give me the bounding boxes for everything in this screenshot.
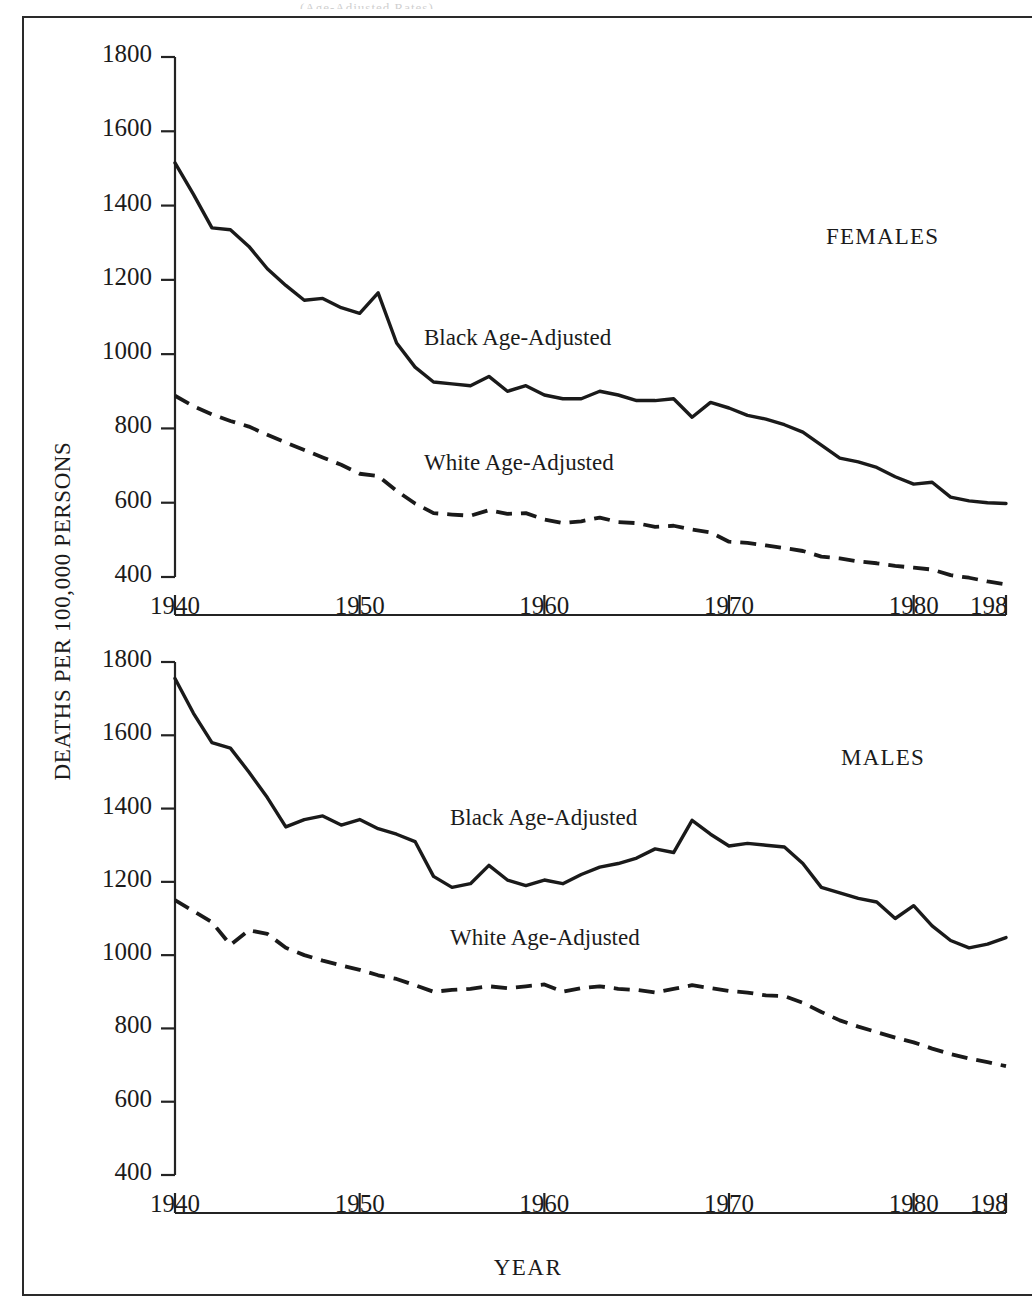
y-tick-label: 1800 bbox=[52, 40, 152, 68]
y-tick-label: 600 bbox=[52, 1085, 152, 1113]
x-tick-label: 1940 bbox=[125, 592, 225, 620]
x-tick-label: 1960 bbox=[494, 592, 594, 620]
x-tick-label: 1940 bbox=[125, 1190, 225, 1218]
y-tick-label: 1600 bbox=[52, 114, 152, 142]
chart-panel-females: FEMALES Black Age-Adjusted White Age-Adj… bbox=[0, 0, 1016, 640]
y-tick-label: 400 bbox=[52, 1158, 152, 1186]
y-tick-label: 1000 bbox=[52, 938, 152, 966]
y-tick-label: 800 bbox=[52, 411, 152, 439]
x-tick-label: 1980 bbox=[864, 592, 964, 620]
y-tick-label: 1600 bbox=[52, 718, 152, 746]
y-tick-label: 600 bbox=[52, 486, 152, 514]
y-tick-label: 800 bbox=[52, 1011, 152, 1039]
series-label-white-males: White Age-Adjusted bbox=[450, 925, 640, 951]
y-tick-label: 1400 bbox=[52, 189, 152, 217]
x-tick-label: 1970 bbox=[679, 592, 779, 620]
chart-svg-females bbox=[0, 0, 1016, 640]
x-tick-label: 198 bbox=[970, 1190, 1036, 1218]
x-tick-label: 1970 bbox=[679, 1190, 779, 1218]
y-tick-label: 1200 bbox=[52, 263, 152, 291]
x-tick-label: 198 bbox=[970, 592, 1036, 620]
y-tick-label: 400 bbox=[52, 560, 152, 588]
series-label-black-males: Black Age-Adjusted bbox=[450, 805, 637, 831]
y-tick-label: 1800 bbox=[52, 645, 152, 673]
chart-panel-males: MALES Black Age-Adjusted White Age-Adjus… bbox=[0, 640, 1016, 1260]
y-tick-label: 1400 bbox=[52, 792, 152, 820]
x-tick-label: 1980 bbox=[864, 1190, 964, 1218]
x-axis-title: YEAR bbox=[0, 1255, 1016, 1281]
series-label-black-females: Black Age-Adjusted bbox=[424, 325, 611, 351]
panel-title-females: FEMALES bbox=[826, 224, 939, 250]
series-label-white-females: White Age-Adjusted bbox=[424, 450, 614, 476]
x-tick-label: 1950 bbox=[310, 1190, 410, 1218]
panel-title-males: MALES bbox=[841, 745, 925, 771]
y-tick-label: 1200 bbox=[52, 865, 152, 893]
y-tick-label: 1000 bbox=[52, 337, 152, 365]
x-tick-label: 1950 bbox=[310, 592, 410, 620]
x-tick-label: 1960 bbox=[494, 1190, 594, 1218]
